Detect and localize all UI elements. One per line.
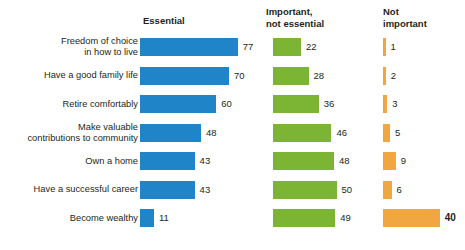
row-label: Own a home [2,156,138,167]
bar-essential[interactable] [140,181,195,199]
bar-important-not-essential[interactable] [273,181,337,199]
bar-value-important-not-essential: 50 [342,184,353,195]
bar-value-essential: 43 [200,184,211,195]
bar-value-not-important: 5 [395,127,400,138]
bar-chart: Essential Important, not essential Not i… [0,0,465,250]
bar-value-not-important: 9 [401,155,406,166]
row-label: Become wealthy [2,213,138,224]
bar-value-important-not-essential: 46 [336,127,347,138]
bar-essential[interactable] [140,67,229,85]
column-header-not-important: Not important [383,6,427,29]
bar-important-not-essential[interactable] [273,152,334,170]
chart-row: Retire comfortably60363 [0,93,465,119]
bar-not-important[interactable] [383,67,386,85]
bar-value-not-important: 1 [391,41,396,52]
bar-important-not-essential[interactable] [273,95,319,113]
bar-value-important-not-essential: 48 [339,155,350,166]
bar-essential[interactable] [140,95,216,113]
bar-value-essential: 70 [234,70,245,81]
bar-essential[interactable] [140,152,195,170]
row-label: Retire comfortably [2,99,138,110]
chart-row: Become wealthy114940 [0,207,465,233]
bar-value-important-not-essential: 22 [306,41,317,52]
chart-row: Freedom of choice in how to live77221 [0,36,465,62]
bar-not-important[interactable] [383,124,390,142]
bar-value-essential: 11 [159,212,169,223]
bar-value-important-not-essential: 36 [324,98,335,109]
chart-row: Make valuable contributions to community… [0,122,465,148]
row-label: Have a successful career [2,184,138,195]
bar-not-important[interactable] [383,152,396,170]
bar-value-not-important: 3 [392,98,397,109]
bar-essential[interactable] [140,124,201,142]
row-label: Have a good family life [2,70,138,81]
row-label: Freedom of choice in how to live [2,36,138,58]
chart-row: Own a home43489 [0,150,465,176]
bar-important-not-essential[interactable] [273,124,331,142]
column-header-important-not-essential: Important, not essential [266,6,324,29]
bar-value-important-not-essential: 49 [340,212,351,223]
bar-value-essential: 77 [243,41,254,52]
bar-value-important-not-essential: 28 [314,70,325,81]
bar-not-important[interactable] [383,38,386,56]
bar-important-not-essential[interactable] [273,38,301,56]
row-label: Make valuable contributions to community [2,122,138,144]
chart-row: Have a successful career43506 [0,179,465,205]
bar-value-essential: 48 [206,127,217,138]
bar-value-not-important: 40 [445,212,456,223]
bar-important-not-essential[interactable] [273,209,335,227]
bar-value-not-important: 6 [397,184,402,195]
bar-not-important[interactable] [383,95,387,113]
bar-important-not-essential[interactable] [273,67,309,85]
bar-not-important[interactable] [383,209,440,227]
bar-not-important[interactable] [383,181,392,199]
chart-row: Have a good family life70282 [0,65,465,91]
bar-essential[interactable] [140,38,238,56]
bar-essential[interactable] [140,209,154,227]
bar-value-essential: 43 [200,155,211,166]
column-header-essential: Essential [143,15,185,27]
bar-value-essential: 60 [221,98,232,109]
bar-value-not-important: 2 [391,70,396,81]
